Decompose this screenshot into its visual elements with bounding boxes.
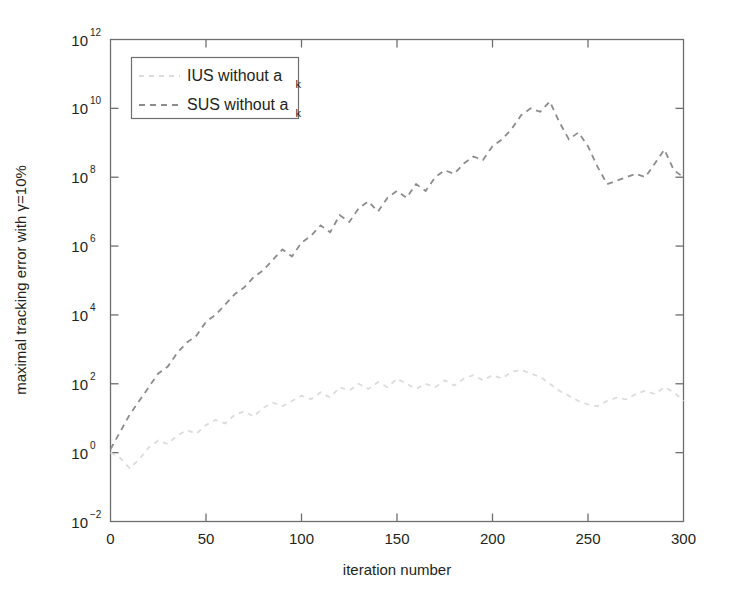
legend-label-subscript-sus: k: [296, 107, 302, 119]
legend-label-subscript-ius: k: [296, 78, 302, 90]
x-tick-label: 50: [198, 530, 215, 547]
y-tick-label-base: 10: [71, 307, 88, 324]
y-tick-label-exponent: 8: [90, 164, 96, 175]
y-tick-label-exponent: 2: [90, 371, 96, 382]
legend[interactable]: IUS without akSUS without ak: [132, 58, 302, 120]
y-tick-label-base: 10: [71, 100, 88, 117]
y-tick-label-base: 10: [71, 514, 88, 531]
x-axis-title: iteration number: [343, 561, 451, 578]
legend-label-sus: SUS without a: [187, 96, 288, 113]
x-tick-label: 200: [480, 530, 505, 547]
x-tick-label: 0: [106, 530, 114, 547]
x-tick-label: 250: [575, 530, 600, 547]
y-tick-label-base: 10: [71, 32, 88, 49]
y-tick-label-exponent: 6: [90, 233, 96, 244]
y-tick-label-exponent: −2: [90, 509, 102, 520]
y-tick-label-base: 10: [71, 238, 88, 255]
chart-canvas: 10−210010210410610810101012 050100150200…: [0, 0, 733, 601]
x-tick-label: 300: [671, 530, 696, 547]
x-tick-label: 100: [289, 530, 314, 547]
y-tick-label-base: 10: [71, 445, 88, 462]
y-axis-title: maximal tracking error with γ=10%: [12, 165, 29, 395]
figure-container: 10−210010210410610810101012 050100150200…: [0, 0, 733, 601]
y-tick-label-base: 10: [71, 376, 88, 393]
x-tick-label: 150: [384, 530, 409, 547]
y-tick-label-exponent: 4: [90, 302, 96, 313]
y-tick-label-exponent: 0: [90, 440, 96, 451]
y-tick-label-exponent: 10: [90, 95, 102, 106]
legend-label-ius: IUS without a: [187, 67, 282, 84]
y-tick-label-base: 10: [71, 169, 88, 186]
y-tick-label-exponent: 12: [90, 27, 102, 38]
